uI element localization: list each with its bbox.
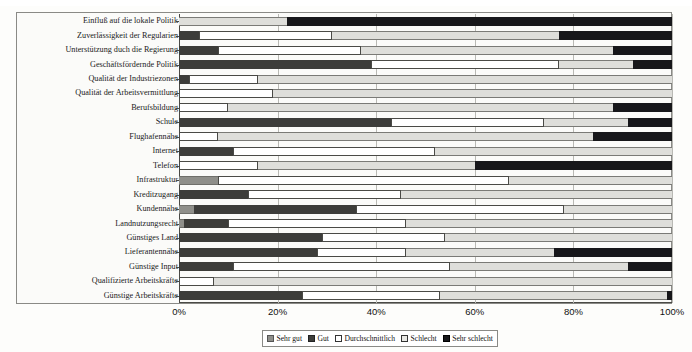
category-tick	[176, 180, 179, 181]
swatch-durchschnittlich-icon	[335, 335, 342, 342]
bar-row	[179, 75, 672, 84]
category-tick	[176, 122, 179, 123]
bar-segment-sehr-schlecht	[287, 17, 672, 26]
bar-segment-gut	[179, 75, 189, 84]
bar-segment-gut	[179, 190, 248, 199]
bar-segment-schlecht	[544, 118, 628, 127]
gridline	[573, 14, 574, 303]
gridline	[376, 14, 377, 303]
bar-segment-sehr-gut	[179, 205, 194, 214]
bar-segment-durchschnittlich	[218, 46, 361, 55]
bar-segment-sehr-schlecht	[613, 46, 672, 55]
category-label: Qualifizierte Arbeitskräfte	[18, 276, 178, 285]
bar-segment-sehr-schlecht	[554, 248, 672, 257]
category-label: Landnutzungsrecht	[18, 219, 178, 228]
bar-segment-durchschnittlich	[218, 176, 509, 185]
bar-segment-schlecht	[361, 46, 612, 55]
legend-item[interactable]: Gut	[308, 334, 329, 343]
legend-label: Schlecht	[411, 334, 437, 343]
bar-segment-durchschnittlich	[179, 103, 228, 112]
category-tick	[176, 50, 179, 51]
bar-row	[179, 205, 672, 214]
bar-row	[179, 233, 672, 242]
bar-segment-schlecht	[332, 31, 559, 40]
category-tick	[176, 108, 179, 109]
bar-row	[179, 46, 672, 55]
chart-legend: Sehr gutGutDurchschnittlichSchlechtSehr …	[262, 330, 498, 347]
x-tick-label: 80%	[564, 306, 583, 317]
bar-row	[179, 190, 672, 199]
legend-item[interactable]: Sehr schlecht	[443, 334, 493, 343]
category-label: Kreditzugang	[18, 190, 178, 199]
x-tick-label: 100%	[660, 306, 684, 317]
bar-segment-schlecht	[559, 60, 633, 69]
bar-row	[179, 132, 672, 141]
category-label: Günstige Input	[18, 262, 178, 271]
x-axis-tick-labels: 0%20%40%60%80%100%	[179, 306, 672, 320]
bar-segment-sehr-schlecht	[667, 291, 672, 300]
category-label: Flughafennähe	[18, 132, 178, 141]
legend-label: Sehr gut	[277, 334, 303, 343]
bar-row	[179, 103, 672, 112]
category-label: Infrastruktur	[18, 175, 178, 184]
bar-row	[179, 161, 672, 170]
bar-segment-sehr-schlecht	[633, 60, 672, 69]
legend-item[interactable]: Schlecht	[401, 334, 437, 343]
bar-row	[179, 89, 672, 98]
bar-segment-durchschnittlich	[371, 60, 558, 69]
bar-segment-gut	[179, 291, 302, 300]
bar-row	[179, 248, 672, 257]
category-label: Qualität der Industriezonen	[18, 74, 178, 83]
bar-row	[179, 176, 672, 185]
category-label: Kundennähe	[18, 204, 178, 213]
category-tick	[176, 21, 179, 22]
category-label: Berufsbildung	[18, 103, 178, 112]
bar-segment-schlecht	[450, 262, 627, 271]
bar-row	[179, 60, 672, 69]
legend-item[interactable]: Sehr gut	[267, 334, 302, 343]
category-tick	[176, 296, 179, 297]
bar-segment-sehr-schlecht	[475, 161, 672, 170]
bar-segment-durchschnittlich	[179, 89, 273, 98]
bar-segment-durchschnittlich	[179, 161, 258, 170]
bar-segment-durchschnittlich	[179, 132, 218, 141]
bar-segment-sehr-gut	[179, 176, 218, 185]
x-tick-label: 40%	[367, 306, 386, 317]
category-label: Schule	[18, 117, 178, 126]
bar-segment-sehr-schlecht	[593, 132, 672, 141]
bar-segment-schlecht	[179, 17, 287, 26]
category-tick	[176, 267, 179, 268]
x-tick-label: 60%	[465, 306, 484, 317]
swatch-sehr-schlecht-icon	[443, 335, 450, 342]
bar-segment-gut	[179, 147, 233, 156]
category-label: Einfluß auf die lokale Politik	[18, 16, 178, 25]
x-tick-label: 0%	[172, 306, 186, 317]
bar-row	[179, 277, 672, 286]
category-tick	[176, 151, 179, 152]
bar-segment-gut	[194, 205, 357, 214]
legend-item[interactable]: Durchschnittlich	[335, 334, 395, 343]
gridline	[278, 14, 279, 303]
bar-segment-durchschnittlich	[248, 190, 401, 199]
bar-segment-gut	[179, 118, 391, 127]
bar-segment-durchschnittlich	[233, 147, 435, 156]
bar-segment-gut	[184, 219, 228, 228]
bar-row	[179, 291, 672, 300]
category-label: Internet	[18, 146, 178, 155]
category-tick	[176, 65, 179, 66]
bar-segment-durchschnittlich	[302, 291, 440, 300]
bar-segment-sehr-schlecht	[613, 103, 672, 112]
bar-segment-schlecht	[273, 89, 672, 98]
category-label: Qualität der Arbeitsvermittlung	[18, 88, 178, 97]
bar-segment-durchschnittlich	[233, 262, 450, 271]
category-label: Telefon	[18, 161, 178, 170]
category-tick	[176, 93, 179, 94]
swatch-gut-icon	[308, 335, 315, 342]
bar-segment-schlecht	[406, 219, 672, 228]
category-tick	[176, 224, 179, 225]
bar-row	[179, 147, 672, 156]
gridline	[672, 14, 673, 303]
category-tick	[176, 238, 179, 239]
category-axis-labels: Einfluß auf die lokale PolitikZuverlässi…	[18, 14, 178, 302]
bar-row	[179, 219, 672, 228]
